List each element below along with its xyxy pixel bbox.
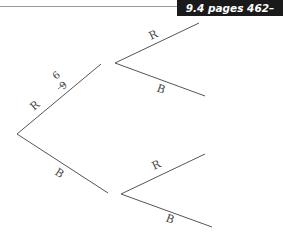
- branch-R-R: [115, 23, 199, 63]
- branch-first-B: [17, 134, 108, 193]
- label-first-B: B: [52, 166, 66, 181]
- probability-tree-diagram: R 6 9 B R B R B: [0, 0, 283, 232]
- prob-denominator: 9: [57, 79, 69, 92]
- label-first-R: R: [28, 98, 43, 114]
- label-B-B: B: [164, 212, 176, 227]
- label-R-B: B: [155, 82, 167, 97]
- branch-B-R: [121, 154, 205, 194]
- label-R-R: R: [147, 27, 161, 43]
- label-B-R: R: [150, 157, 164, 173]
